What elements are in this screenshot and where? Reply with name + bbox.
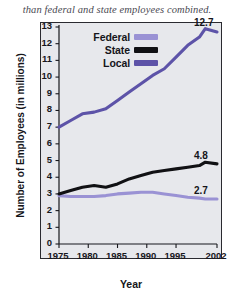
x-axis-title: Year xyxy=(40,278,222,290)
end-label-local: 12.7 xyxy=(194,17,213,28)
y-tick-7: 7 xyxy=(36,121,52,131)
chart-figure: Federal State Local 012345678910111213 1… xyxy=(0,20,234,301)
y-tick-6: 6 xyxy=(36,138,52,148)
legend-item-local: Local xyxy=(46,56,158,69)
y-tick-8: 8 xyxy=(36,104,52,114)
y-tick-0: 0 xyxy=(36,238,52,248)
legend-swatch-state xyxy=(134,47,158,53)
x-tick-1980: 1980 xyxy=(72,250,102,261)
y-tick-9: 9 xyxy=(36,88,52,98)
y-tick-11: 11 xyxy=(36,54,52,64)
x-tick-2002: 2002 xyxy=(201,250,231,261)
y-tick-3: 3 xyxy=(36,188,52,198)
legend-swatch-federal xyxy=(134,34,158,40)
legend-label-local: Local xyxy=(103,57,130,69)
x-tick-1990: 1990 xyxy=(131,250,161,261)
y-tick-13: 13 xyxy=(36,21,52,31)
y-tick-1: 1 xyxy=(36,221,52,231)
legend-label-state: State xyxy=(105,44,130,56)
y-tick-4: 4 xyxy=(36,171,52,181)
y-axis-title: Number of Employees (in millions) xyxy=(15,46,26,226)
y-tick-2: 2 xyxy=(36,205,52,215)
end-label-state: 4.8 xyxy=(194,150,208,161)
chart-legend: Federal State Local xyxy=(46,30,158,69)
legend-item-federal: Federal xyxy=(46,30,158,43)
legend-item-state: State xyxy=(46,43,158,56)
y-tick-12: 12 xyxy=(36,38,52,48)
end-label-federal: 2.7 xyxy=(194,185,208,196)
legend-swatch-local xyxy=(134,60,158,66)
x-tick-1995: 1995 xyxy=(160,250,190,261)
y-tick-10: 10 xyxy=(36,71,52,81)
legend-label-federal: Federal xyxy=(93,31,130,43)
x-tick-1985: 1985 xyxy=(102,250,132,261)
y-tick-5: 5 xyxy=(36,155,52,165)
x-tick-1975: 1975 xyxy=(43,250,73,261)
